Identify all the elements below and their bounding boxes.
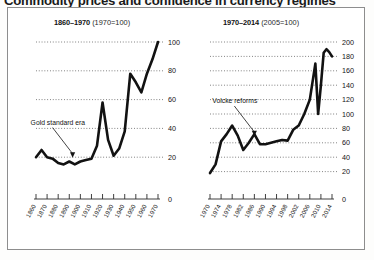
right-x-axis [208, 194, 334, 199]
y-tick-label: 0 [342, 195, 346, 204]
figure-root: Commodity prices and confidence in curre… [0, 0, 374, 260]
left-gridlines [36, 42, 164, 157]
y-tick-label: 60 [168, 95, 176, 104]
right-chart-svg: 020406080100120140160180200 197019741978… [200, 36, 360, 241]
left-chart-title-range: 1860–1970 [54, 18, 90, 27]
right-y-ticklabels: 020406080100120140160180200 [342, 38, 354, 204]
x-tick-label: 2014 [320, 203, 333, 219]
left-chart: 020406080100 186018701880189019001910192… [26, 36, 186, 241]
annotation-label: Gold standard era [31, 119, 86, 126]
left-chart-title: 1860–1970 (1970=100) [54, 18, 130, 27]
right-chart-title: 1970–2014 (2005=100) [223, 18, 299, 27]
right-chart-title-note: (2005=100) [261, 18, 299, 27]
y-tick-label: 100 [342, 110, 354, 119]
left-chart-svg: 020406080100 186018701880189019001910192… [26, 36, 186, 241]
left-x-ticklabels: 1860187018801890190019101920193019401950… [24, 203, 159, 219]
left-series-line [36, 42, 158, 164]
y-tick-label: 140 [342, 81, 354, 90]
y-tick-label: 80 [342, 124, 350, 133]
left-y-ticklabels: 020406080100 [168, 38, 180, 204]
y-tick-label: 20 [342, 167, 350, 176]
y-tick-label: 60 [342, 138, 350, 147]
right-chart: 020406080100120140160180200 197019741978… [200, 36, 360, 241]
y-tick-label: 0 [168, 195, 172, 204]
annotation-label: Volcke reforms [212, 97, 258, 104]
left-x-axis [34, 194, 160, 199]
x-tick-label: 1970 [146, 203, 159, 219]
left-chart-title-note: (1970=100) [92, 18, 130, 27]
right-series-line [210, 49, 332, 173]
y-tick-label: 80 [168, 66, 176, 75]
y-tick-label: 20 [168, 153, 176, 162]
y-tick-label: 100 [168, 38, 180, 47]
y-tick-label: 40 [342, 153, 350, 162]
y-tick-label: 40 [168, 124, 176, 133]
y-tick-label: 180 [342, 52, 354, 61]
y-tick-label: 200 [342, 38, 354, 47]
y-tick-label: 120 [342, 95, 354, 104]
right-x-ticklabels: 1970197419781982198619901994199820022006… [198, 203, 333, 219]
chart-panel: 1860–1970 (1970=100) 1970–2014 (2005=100… [7, 7, 365, 250]
y-tick-label: 160 [342, 66, 354, 75]
right-chart-title-range: 1970–2014 [223, 18, 259, 27]
